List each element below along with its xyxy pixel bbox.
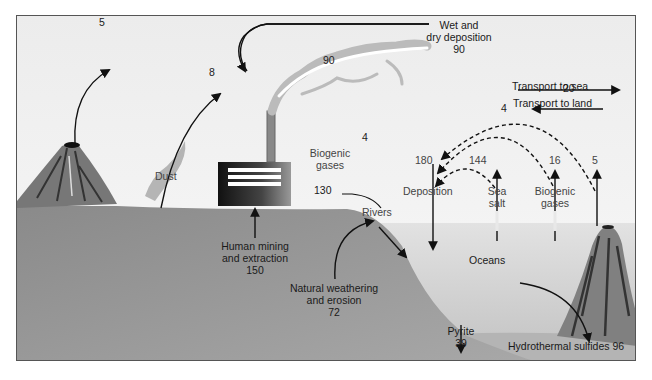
human-mining-label: Human mining and extraction 150 bbox=[221, 240, 289, 276]
transport-to-land-label: Transport to land bbox=[513, 97, 592, 109]
transport-to-land-value: 4 bbox=[501, 102, 507, 114]
sulfur-cycle-diagram: 5 8 Dust 90 Wet and dry deposition 90 20… bbox=[16, 15, 636, 361]
rivers-label: Rivers bbox=[362, 206, 392, 218]
dust-label: Dust bbox=[155, 170, 177, 182]
factory-icon bbox=[218, 111, 291, 206]
ocean-deposition-label: Deposition bbox=[403, 185, 453, 197]
dashed-arc-biogenic bbox=[438, 137, 553, 186]
natural-weathering-label: Natural weathering and erosion 72 bbox=[290, 282, 378, 318]
ocean-biogenic-gases-value: 16 bbox=[549, 154, 561, 166]
volcanic-emission-value: 5 bbox=[99, 16, 105, 28]
transport-to-sea-label: Transport to sea bbox=[512, 80, 588, 92]
land-biogenic-gases-label: Biogenic gases bbox=[310, 147, 350, 171]
ocean-deposition-value: 180 bbox=[415, 154, 433, 166]
sea-salt-value: 144 bbox=[469, 154, 487, 166]
volcano-left-icon bbox=[17, 142, 117, 208]
rivers-value: 130 bbox=[314, 184, 332, 196]
dust-flux-value: 8 bbox=[209, 66, 215, 78]
wet-dry-deposition-label: Wet and dry deposition 90 bbox=[426, 19, 491, 55]
sea-salt-label: Sea salt bbox=[488, 185, 507, 209]
dashed-arc-volcano bbox=[442, 124, 595, 191]
smoke-cloud-icon bbox=[272, 44, 427, 111]
volcanic-emission-arrow bbox=[75, 70, 109, 144]
ocean-biogenic-gases-label: Biogenic gases bbox=[535, 185, 575, 209]
oceans-label: Oceans bbox=[469, 254, 505, 266]
submarine-volcano-value: 5 bbox=[592, 154, 598, 166]
land-biogenic-gases-value: 4 bbox=[362, 131, 368, 143]
pyrite-label: Pyrite 39 bbox=[448, 325, 475, 349]
industrial-cloud-value: 90 bbox=[323, 54, 335, 66]
hydrothermal-sulfides-label: Hydrothermal sulfides 96 bbox=[508, 340, 624, 352]
dust-arrow bbox=[161, 94, 220, 208]
